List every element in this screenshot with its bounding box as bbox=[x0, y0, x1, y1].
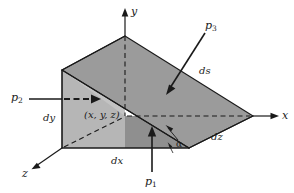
p2-sub: 2 bbox=[18, 96, 23, 105]
p3-label: p3 bbox=[205, 20, 217, 32]
p1-base: p bbox=[145, 175, 152, 188]
ds-label: ds bbox=[199, 66, 211, 76]
p3-base: p bbox=[205, 19, 212, 32]
point-label: (x, y, z) bbox=[84, 110, 120, 120]
dx-label: dx bbox=[111, 156, 123, 166]
alpha-label: α bbox=[176, 140, 182, 149]
dy-label: dy bbox=[43, 113, 55, 123]
y-axis bbox=[122, 8, 129, 36]
p1-sub: 1 bbox=[152, 180, 157, 189]
dz-label: dz bbox=[211, 132, 223, 142]
diagram-canvas bbox=[0, 0, 294, 193]
p1-label: p1 bbox=[145, 176, 157, 188]
x-axis-label: x bbox=[282, 110, 288, 121]
wedge-pressure-diagram: y x z p2 p1 p3 dy dx dz ds (x, y, z) α bbox=[0, 0, 294, 193]
x-axis bbox=[253, 113, 279, 119]
y-axis-label: y bbox=[131, 6, 137, 17]
p3-sub: 3 bbox=[212, 24, 217, 33]
z-axis bbox=[32, 148, 63, 169]
p2-base: p bbox=[11, 91, 18, 104]
z-axis-label: z bbox=[22, 168, 28, 179]
p2-label: p2 bbox=[11, 92, 23, 104]
